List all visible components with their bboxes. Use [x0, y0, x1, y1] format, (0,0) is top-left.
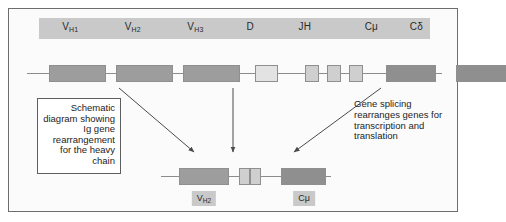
jh1-box: [305, 65, 319, 82]
segment-label-subscript: H2: [132, 26, 141, 33]
segment-label-main: V: [125, 21, 132, 32]
germline-locus-diagram: [27, 63, 442, 85]
segment-label-vh2: VH2: [125, 21, 141, 32]
gene-segment-label-bar: VH1VH2VH3DJHCμCδ: [39, 18, 430, 39]
d-box-rearranged: [239, 168, 250, 185]
segment-label-main: Cμ: [365, 21, 378, 32]
jh2-box: [327, 65, 341, 82]
vh1-box: [49, 65, 106, 82]
cmu-chip: Cμ: [293, 191, 315, 206]
d-box: [255, 65, 278, 82]
chip-label-main: Cμ: [298, 193, 310, 203]
gene-splicing-note-text: Gene splicing rearranges genes for trans…: [354, 98, 442, 141]
segment-label-subscript: H1: [69, 26, 78, 33]
vh3-box: [183, 65, 240, 82]
segment-label-main: JH: [299, 21, 312, 32]
segment-label-main: Cδ: [410, 21, 423, 32]
segment-label-main: V: [187, 21, 194, 32]
cmu-box-rearranged: [281, 168, 326, 185]
arrow-vh2-to-rearranged: [119, 88, 194, 152]
figure-panel: VH1VH2VH3DJHCμCδ Schematic diagram showi…: [8, 8, 458, 212]
chip-label-subscript: H2: [203, 197, 211, 204]
segment-label-main: V: [62, 21, 69, 32]
vh2-chip: VH2: [192, 191, 216, 206]
schematic-caption-text: Schematic diagram showing Ig gene rearra…: [43, 102, 115, 166]
segment-label-subscript: H3: [194, 26, 203, 33]
segment-label-cdelta: Cδ: [410, 21, 423, 32]
segment-label-vh3: VH3: [187, 21, 203, 32]
cmu-box: [386, 65, 436, 82]
rearranged-locus-diagram: VH2Cμ: [161, 166, 331, 188]
segment-label-vh1: VH1: [62, 21, 78, 32]
vh2-box: [116, 65, 173, 82]
jh3-box: [349, 65, 363, 82]
jh-box-rearranged: [250, 168, 261, 185]
vh2-box-rearranged: [179, 168, 229, 185]
segment-label-d: D: [246, 21, 253, 32]
cdelta-box: [456, 65, 506, 82]
segment-label-main: D: [246, 21, 253, 32]
segment-label-cmu: Cμ: [365, 21, 378, 32]
segment-label-jh: JH: [299, 21, 312, 32]
gene-splicing-note: Gene splicing rearranges genes for trans…: [354, 99, 458, 142]
schematic-caption-box: Schematic diagram showing Ig gene rearra…: [37, 98, 121, 174]
